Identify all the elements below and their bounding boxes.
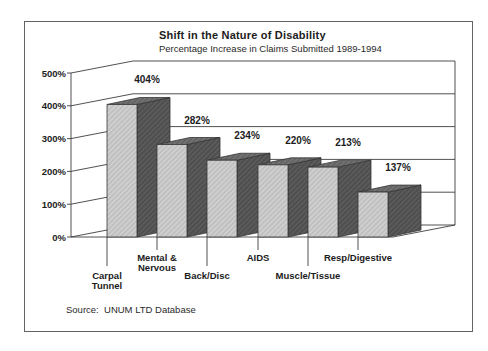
bar-front-face — [258, 165, 288, 237]
x-axis-label-carpal-tunnel: Tunnel — [92, 280, 122, 291]
x-axis-label-resp-digestive: Resp/Digestive — [324, 252, 392, 263]
x-axis-label-muscle-tissue: Muscle/Tissue — [276, 270, 341, 281]
chart-root: 0%100%200%300%400%500%404%282%234%220%21… — [42, 61, 455, 291]
y-axis-label: 0% — [52, 232, 66, 243]
bar-front-face — [308, 167, 338, 237]
y-axis-label: 100% — [42, 199, 67, 210]
bar-front-face — [107, 104, 137, 237]
scanned-chart-page: Shift in the Nature of Disability Percen… — [0, 0, 488, 351]
bar-value-label: 213% — [335, 137, 361, 148]
bar-front-face — [358, 192, 388, 237]
y-axis-label: 400% — [42, 100, 67, 111]
bar-chart-3d: 0%100%200%300%400%500%404%282%234%220%21… — [0, 0, 488, 351]
bar-value-label: 137% — [385, 162, 411, 173]
bar-value-label: 234% — [234, 130, 260, 141]
bar-value-label: 404% — [134, 74, 160, 85]
left-wall-gridline — [71, 61, 133, 73]
bar-value-label: 282% — [184, 115, 210, 126]
bar-front-face — [157, 145, 187, 237]
x-axis-label-aids: AIDS — [247, 252, 270, 263]
category-axis-labels: CarpalTunnelMental &NervousBack/DiscAIDS… — [92, 237, 392, 291]
x-axis-label-back-disc: Back/Disc — [184, 270, 229, 281]
bar-side-face — [388, 185, 421, 237]
bar-value-label: 220% — [285, 135, 311, 146]
y-axis-label: 300% — [42, 133, 67, 144]
bars: 404%282%234%220%213%137% — [107, 74, 421, 237]
y-axis-label: 500% — [42, 68, 67, 79]
y-axis-label: 200% — [42, 166, 67, 177]
x-axis-label-mental-nervous: Nervous — [138, 262, 176, 273]
bar-front-face — [207, 160, 237, 237]
